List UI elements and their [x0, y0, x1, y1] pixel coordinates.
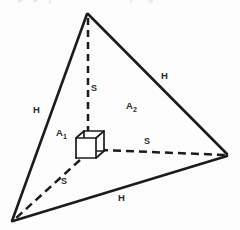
label-area-a1-subscript: 1: [63, 133, 67, 140]
tetrahedron-figure: p p j y g: [0, 0, 240, 230]
label-s-right: S: [144, 137, 150, 146]
right-axis-line: [100, 150, 226, 155]
label-area-a2-subscript: 2: [133, 106, 137, 113]
bottom-edge-line: [13, 156, 227, 221]
left-edge-line: [12, 14, 87, 221]
label-h-left: H: [33, 105, 40, 115]
label-area-a2-base: A: [126, 100, 133, 111]
label-s-top: S: [91, 84, 97, 93]
label-area-a2: A2: [126, 101, 137, 113]
label-area-a1: A1: [56, 128, 67, 140]
cube-edge-bottom-right: [96, 151, 104, 158]
label-h-right: H: [161, 71, 168, 81]
label-area-a1-base: A: [56, 127, 63, 138]
cube-front-face: [76, 138, 96, 158]
right-edge-line: [88, 14, 227, 154]
inscribed-cube-group: [76, 131, 104, 158]
cube-edge-top-left: [76, 131, 84, 138]
solid-edge-group: [12, 14, 227, 221]
label-h-bottom: H: [118, 193, 125, 203]
label-s-lower-left: S: [61, 177, 67, 186]
